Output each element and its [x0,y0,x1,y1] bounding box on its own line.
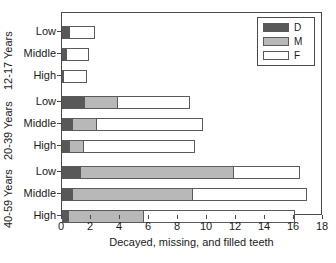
x-tick-mark-9 [322,215,323,219]
x-tick-label-4: 8 [165,220,189,233]
bar-row [62,140,195,153]
x-tick-mark-8 [293,215,294,219]
bar-segment-d [62,188,72,201]
plot-area: D M F [61,12,322,215]
x-tick-label-9: 18 [310,220,334,233]
bar-segment-f [69,26,95,39]
legend-swatch-d [263,23,289,32]
x-tick-label-1: 2 [78,220,102,233]
bar-segment-f [83,140,195,153]
x-tick-mark-0 [61,215,62,219]
bar-segment-f [63,70,86,83]
x-tick-label-8: 16 [281,220,305,233]
x-tick-mark-3 [148,215,149,219]
bar-segment-d [62,118,72,131]
x-tick-mark-1 [90,215,91,219]
x-tick-label-3: 6 [136,220,160,233]
y-tick-label-2: High [33,69,56,82]
bar-row [62,48,89,61]
legend-swatch-m [263,37,289,46]
bar-segment-m [84,96,117,109]
legend-item-m: M [263,36,310,47]
bar-row [62,96,190,109]
bar-segment-f [117,96,190,109]
y-tick-label-7: Middle [24,187,56,200]
y-tick-label-0: Low [36,25,56,38]
chart-figure: 12-17 Years 20-39 Years 40-59 Years Low … [0,0,336,263]
legend-item-f: F [263,50,310,61]
legend-label-d: D [294,23,301,33]
y-tick-label-5: High [33,139,56,152]
bar-segment-f [96,118,203,131]
legend-label-m: M [294,37,302,47]
x-axis-ticks: 024681012141618 [61,215,322,235]
bar-row [62,70,87,83]
bar-segment-d [62,166,80,179]
x-tick-label-5: 10 [194,220,218,233]
bar-row [62,118,203,131]
bar-segment-f [66,48,89,61]
x-tick-mark-5 [206,215,207,219]
x-tick-label-0: 0 [49,220,73,233]
x-tick-mark-4 [177,215,178,219]
y-tick-label-6: Low [36,165,56,178]
bar-row [62,188,307,201]
bar-segment-f [192,188,307,201]
bar-segment-d [62,96,84,109]
y-tick-label-3: Low [36,95,56,108]
bar-segment-m [72,118,96,131]
bar-segment-m [69,140,84,153]
x-tick-mark-2 [119,215,120,219]
y-axis-tick-labels: Low Middle High Low Middle High Low Midd… [0,12,56,215]
bar-segment-f [233,166,300,179]
bar-segment-m [80,166,233,179]
x-tick-label-6: 12 [223,220,247,233]
y-tick-label-4: Middle [24,117,56,130]
bar-row [62,26,95,39]
x-tick-mark-7 [264,215,265,219]
legend-label-f: F [294,51,300,61]
x-tick-label-7: 14 [252,220,276,233]
legend-swatch-f [263,51,289,60]
legend-item-d: D [263,22,310,33]
x-axis-title: Decayed, missing, and filled teeth [61,236,322,248]
y-tick-label-1: Middle [24,47,56,60]
bar-row [62,166,300,179]
bar-segment-m [72,188,192,201]
x-tick-mark-6 [235,215,236,219]
x-tick-label-2: 4 [107,220,131,233]
legend: D M F [257,17,315,66]
bar-segment-d [62,26,69,39]
